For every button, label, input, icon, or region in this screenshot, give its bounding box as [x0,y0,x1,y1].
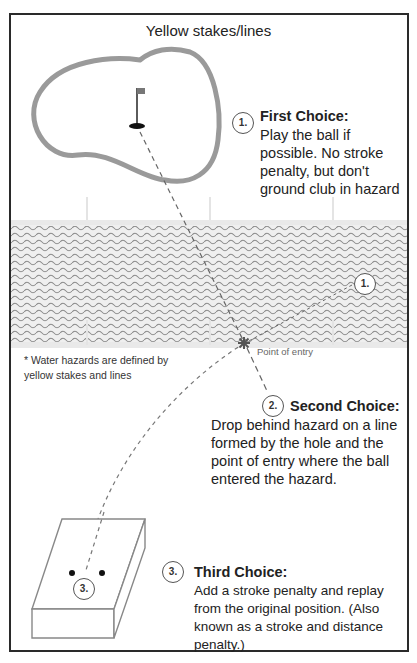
choice-2-description: Drop behind hazard on a line formed by t… [211,416,407,488]
diagram-title: Yellow stakes/lines [0,22,417,39]
choice-3-heading: Third Choice: [194,564,287,580]
choice-2-heading: Second Choice: [290,398,400,414]
choice-1-description: Play the ball if possible. No stroke pen… [260,126,410,198]
choice-1-line: ground club in hazard [260,180,410,198]
choice-1-badge: 1. [232,112,254,134]
tee-marker-badge: 3. [73,578,95,600]
choice-3-line: Add a stroke penalty and replay [194,582,406,600]
water-hazard-note: * Water hazards are defined by yellow st… [24,353,174,383]
point-of-entry-label: Point of entry [257,346,313,357]
hazard-stakes [87,197,333,220]
tee-marker-left-icon [69,570,75,576]
hole-icon [129,123,145,129]
tee-marker-right-icon [99,570,105,576]
choice-2-badge: 2. [262,395,284,417]
flag-icon [129,88,145,129]
choice-2-line: formed by the hole and the [211,434,407,452]
hazard-marker-badge: 1. [354,273,376,295]
choice-3-badge: 3. [162,561,184,583]
choice-3-line: known as a stroke and distance [194,618,406,636]
choice-2-line: point of entry where the ball [211,452,407,470]
choice-3-line: penalty.) [194,636,406,654]
choice-2-line: Drop behind hazard on a line [211,416,407,434]
entry-point-star-icon [238,337,250,349]
choice-1-line: Play the ball if [260,126,410,144]
choice-3-description: Add a stroke penalty and replay from the… [194,582,406,654]
choice-3-line: from the original position. (Also [194,600,406,618]
choice-1-line: possible. No stroke [260,144,410,162]
green-outline [34,49,219,181]
choice-2-line: entered the hazard. [211,470,407,488]
choice-1-heading: First Choice: [260,108,349,124]
choice-1-line: penalty, but don't [260,162,410,180]
